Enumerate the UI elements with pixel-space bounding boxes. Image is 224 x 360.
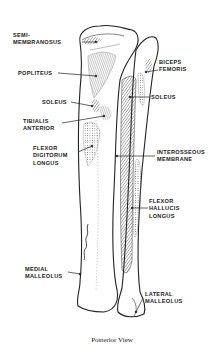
label-soleus-right: SOLEUS (151, 94, 176, 101)
label-medial-malleolus: MEDIAL MALLEOLUS (25, 266, 63, 281)
label-tibialis-anterior: TIBIALIS ANTERIOR (23, 118, 55, 133)
label-popliteus: POPLITEUS (18, 70, 52, 77)
label-flexor-digitorum-longus: FLEXOR DIGITORUM LONGUS (33, 145, 68, 167)
figure-caption: Posterior View (0, 336, 224, 344)
label-semimembranosus: SEMI- MEMBRANOSUS (13, 32, 61, 47)
label-interosseous-membrane: INTEROSSEOUS MEMBRANE (157, 149, 205, 164)
label-biceps-femoris: BICEPS FEMORIS (159, 59, 187, 74)
bone-illustration (0, 0, 224, 360)
label-lateral-malleolus: LATERAL MALLEOLUS (145, 291, 183, 306)
label-soleus-left: SOLEUS (42, 99, 67, 106)
label-flexor-hallucis-longus: FLEXOR HALLUCIS LONGUS (149, 198, 180, 220)
